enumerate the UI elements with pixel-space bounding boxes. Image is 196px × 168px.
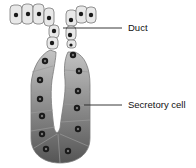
gland-diagram [0, 0, 196, 168]
secretory-cell-label: Secretory cell [128, 100, 186, 110]
secretory-portion [31, 50, 90, 163]
duct-label: Duct [128, 23, 148, 33]
